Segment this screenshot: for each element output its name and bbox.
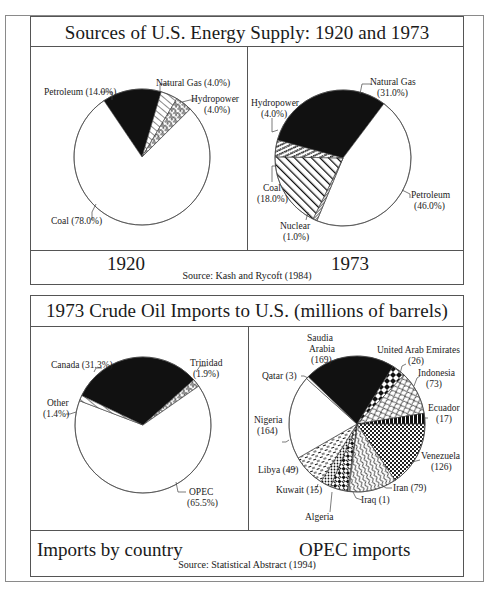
- label-opec-indonesia-value: (73): [426, 379, 442, 390]
- label-opec-nigeria-value: (164): [257, 426, 278, 437]
- label-opec-venezuela: Venezuela: [421, 451, 460, 462]
- label-1973-nuclear: Nuclear: [280, 221, 310, 232]
- label-1973-natural-gas: Natural Gas: [370, 77, 416, 88]
- label-1973-petroleum: Petroleum: [411, 190, 450, 201]
- label-imports-trinidad-pct: (1.9%): [193, 369, 219, 380]
- label-opec-venezuela-value: (126): [431, 462, 452, 473]
- label-1920-petroleum: Petroleum (14.0%): [44, 87, 116, 98]
- label-opec-nigeria: Nigeria: [254, 415, 283, 426]
- label-1920-natural-gas: Natural Gas (4.0%): [156, 78, 230, 89]
- label-opec-iran: Iran (79): [393, 483, 427, 494]
- pie-chart-0: [74, 89, 210, 225]
- label-imports-opec-pct: (65.5%): [187, 498, 218, 509]
- label-imports-opec: OPEC: [189, 487, 213, 498]
- label-1973-natural-gas-pct: (31.0%): [377, 88, 408, 99]
- label-1920-hydropower-pct: (4.0%): [204, 105, 230, 116]
- label-opec-saudi: Saudia: [307, 333, 333, 344]
- label-opec-uae: United Arab Emirates: [377, 345, 460, 356]
- label-1973-hydropower: Hydropower: [251, 98, 299, 109]
- label-imports-other: Other: [47, 398, 69, 409]
- label-opec-saudi-value: (169): [311, 355, 332, 366]
- label-opec-saudi-2: Arabia: [309, 344, 335, 355]
- label-opec-qatar: Qatar (3): [262, 371, 297, 382]
- label-opec-ecuador: Ecuador: [428, 403, 460, 414]
- label-1920-hydropower: Hydropower: [191, 94, 239, 105]
- pie-chart-1: [275, 90, 411, 226]
- pie-chart-3: [289, 356, 425, 492]
- pie-chart-2: [75, 357, 211, 493]
- label-opec-indonesia: Indonesia: [418, 368, 455, 379]
- label-opec-iraq: Iraq (1): [361, 495, 390, 506]
- label-imports-other-pct: (1.4%): [43, 409, 69, 420]
- label-1973-hydropower-pct: (4.0%): [261, 109, 287, 120]
- label-opec-kuwait: Kuwait (15): [276, 485, 322, 496]
- label-1973-coal-pct: (18.0%): [257, 194, 288, 205]
- label-opec-libya: Libya (49): [258, 465, 298, 476]
- label-1973-coal: Coal: [263, 183, 281, 194]
- label-1920-coal: Coal (78.0%): [51, 216, 102, 227]
- label-opec-ecuador-value: (17): [436, 414, 452, 425]
- label-opec-uae-value: (26): [408, 356, 424, 367]
- label-1973-nuclear-pct: (1.0%): [283, 232, 309, 243]
- label-1973-petroleum-pct: (46.0%): [414, 201, 445, 212]
- label-opec-algeria: Algeria: [305, 512, 334, 523]
- label-imports-trinidad: Trinidad: [190, 358, 222, 369]
- label-imports-canada: Canada (31.3%): [51, 360, 113, 371]
